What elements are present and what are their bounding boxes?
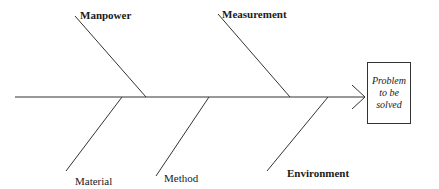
cause-label-manpower: Manpower (80, 9, 131, 21)
cause-label-method: Method (164, 172, 198, 184)
effect-line-3: solved (376, 99, 402, 111)
bone-measurement (218, 14, 290, 97)
effect-line-1: Problem (372, 75, 406, 87)
cause-label-measurement: Measurement (222, 8, 287, 20)
bone-method (156, 97, 209, 176)
effect-line-2: to be (379, 87, 399, 99)
bone-manpower (75, 16, 146, 97)
cause-label-environment: Environment (287, 167, 349, 179)
effect-box: Problem to be solved (367, 62, 411, 124)
cause-label-material: Material (75, 175, 112, 187)
bone-material (66, 97, 122, 171)
bone-environment (267, 97, 328, 171)
